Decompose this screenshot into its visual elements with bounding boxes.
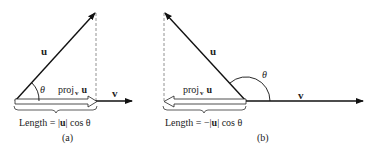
angle-arc xyxy=(32,83,39,101)
angle-arc xyxy=(230,77,270,101)
length-brace xyxy=(163,106,246,113)
projection-arrow xyxy=(164,96,246,107)
label-proj: projvu xyxy=(183,84,213,97)
panel-b: u v θ projvu Length = −|u| cos θ (b) xyxy=(163,13,363,144)
label-v: v xyxy=(298,89,304,101)
length-formula: Length = −|u| cos θ xyxy=(165,117,243,128)
projection-diagram: u v θ projvu Length = |u| cos θ (a) u v … xyxy=(0,0,378,156)
label-proj: projvu xyxy=(58,84,88,97)
label-u: u xyxy=(210,45,216,57)
label-u: u xyxy=(41,45,47,57)
projection-arrow xyxy=(15,96,97,107)
length-brace xyxy=(14,106,97,113)
label-theta: θ xyxy=(262,69,267,80)
caption-a: (a) xyxy=(62,132,73,144)
length-formula: Length = |u| cos θ xyxy=(19,117,91,128)
vector-u xyxy=(165,13,246,101)
panel-a: u v θ projvu Length = |u| cos θ (a) xyxy=(14,13,132,144)
caption-b: (b) xyxy=(257,132,269,144)
label-v: v xyxy=(112,87,118,99)
label-theta: θ xyxy=(40,84,45,95)
